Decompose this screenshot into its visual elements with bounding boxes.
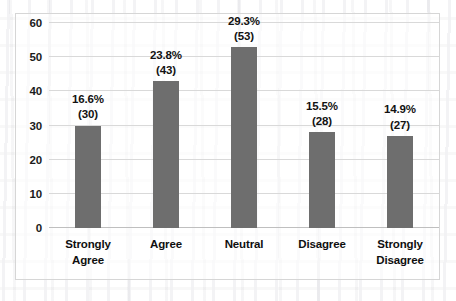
chart-plot-area: 0102030405060 16.6%(30)StronglyAgree23.8… — [49, 23, 439, 228]
x-axis-category-label-line: Agree — [45, 253, 131, 269]
x-axis-category-label: StronglyAgree — [45, 237, 131, 268]
bar[interactable] — [231, 47, 257, 228]
bar-data-label: 14.9%(27) — [384, 102, 416, 132]
bar-count-label: (53) — [228, 29, 260, 44]
bar[interactable] — [387, 136, 413, 228]
bar-count-label: (27) — [384, 118, 416, 133]
bar[interactable] — [153, 81, 179, 228]
x-axis-category-label-line: Neutral — [201, 237, 287, 253]
x-axis-category-label: StronglyDisagree — [357, 237, 443, 268]
x-axis-category-label: Disagree — [279, 237, 365, 253]
y-axis-tick-label: 50 — [29, 51, 42, 63]
bar-count-label: (28) — [306, 114, 338, 129]
bar-group: 29.3%(53)Neutral — [205, 23, 283, 228]
bar-percent-label: 16.6% — [72, 92, 104, 107]
bar-data-label: 23.8%(43) — [150, 48, 182, 78]
y-axis-tick-label: 60 — [29, 17, 42, 29]
bar-data-label: 15.5%(28) — [306, 99, 338, 129]
y-axis-tick-label: 10 — [29, 188, 42, 200]
bar-count-label: (43) — [150, 63, 182, 78]
x-axis-category-label-line: Strongly — [45, 237, 131, 253]
bar-data-label: 16.6%(30) — [72, 92, 104, 122]
y-axis-tick-label: 20 — [29, 154, 42, 166]
bar-group: 23.8%(43)Agree — [127, 23, 205, 228]
bar-percent-label: 14.9% — [384, 102, 416, 117]
bar[interactable] — [75, 126, 101, 229]
bar-data-label: 29.3%(53) — [228, 14, 260, 44]
bar-group: 15.5%(28)Disagree — [283, 23, 361, 228]
y-axis-tick-label: 40 — [29, 85, 42, 97]
bar-group: 14.9%(27)StronglyDisagree — [361, 23, 439, 228]
bar[interactable] — [309, 132, 335, 228]
bar-group: 16.6%(30)StronglyAgree — [49, 23, 127, 228]
bar-percent-label: 23.8% — [150, 48, 182, 63]
x-axis-category-label: Neutral — [201, 237, 287, 253]
bar-percent-label: 15.5% — [306, 99, 338, 114]
x-axis-category-label-line: Disagree — [357, 253, 443, 269]
y-axis-tick-label: 30 — [29, 120, 42, 132]
x-axis-category-label-line: Strongly — [357, 237, 443, 253]
x-axis-category-label: Agree — [123, 237, 209, 253]
y-axis-tick-label: 0 — [36, 222, 42, 234]
x-axis-category-label-line: Agree — [123, 237, 209, 253]
bar-count-label: (30) — [72, 107, 104, 122]
bar-percent-label: 29.3% — [228, 14, 260, 29]
x-axis-category-label-line: Disagree — [279, 237, 365, 253]
chart-plot-frame: 0102030405060 16.6%(30)StronglyAgree23.8… — [15, 13, 440, 280]
